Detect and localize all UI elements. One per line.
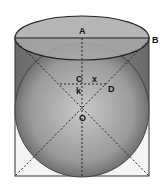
diagram: A B C x D k O xyxy=(0,0,167,190)
label-O: O xyxy=(79,113,86,123)
label-C: C xyxy=(76,74,83,84)
label-B: B xyxy=(152,35,159,45)
label-D: D xyxy=(108,84,115,94)
label-A: A xyxy=(79,26,86,36)
label-x: x xyxy=(92,74,97,84)
